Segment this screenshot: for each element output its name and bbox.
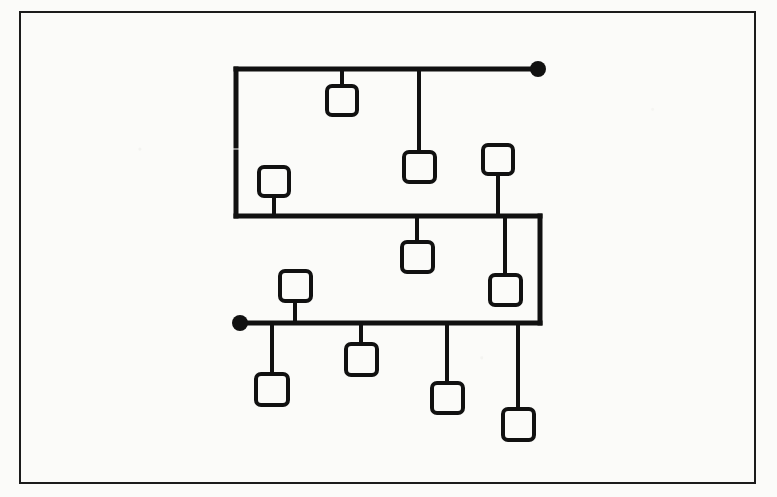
node-mid-left	[259, 167, 289, 196]
page-background	[0, 0, 777, 497]
node-mid-below-center	[402, 242, 433, 272]
node-bottom-3	[432, 383, 463, 413]
diagram-canvas	[0, 0, 777, 497]
node-bottom-1	[256, 374, 288, 405]
node-bottom-4	[503, 409, 534, 440]
node-top-1	[327, 86, 357, 115]
node-top-2	[404, 152, 435, 182]
node-mid-above-right	[483, 145, 513, 174]
node-bottom-2	[346, 344, 377, 375]
terminal-bottom-left	[232, 315, 248, 331]
figure-root	[0, 0, 777, 497]
node-mid-below-right	[490, 275, 521, 305]
node-bottom-above	[280, 271, 311, 301]
terminal-top-right	[530, 61, 546, 77]
